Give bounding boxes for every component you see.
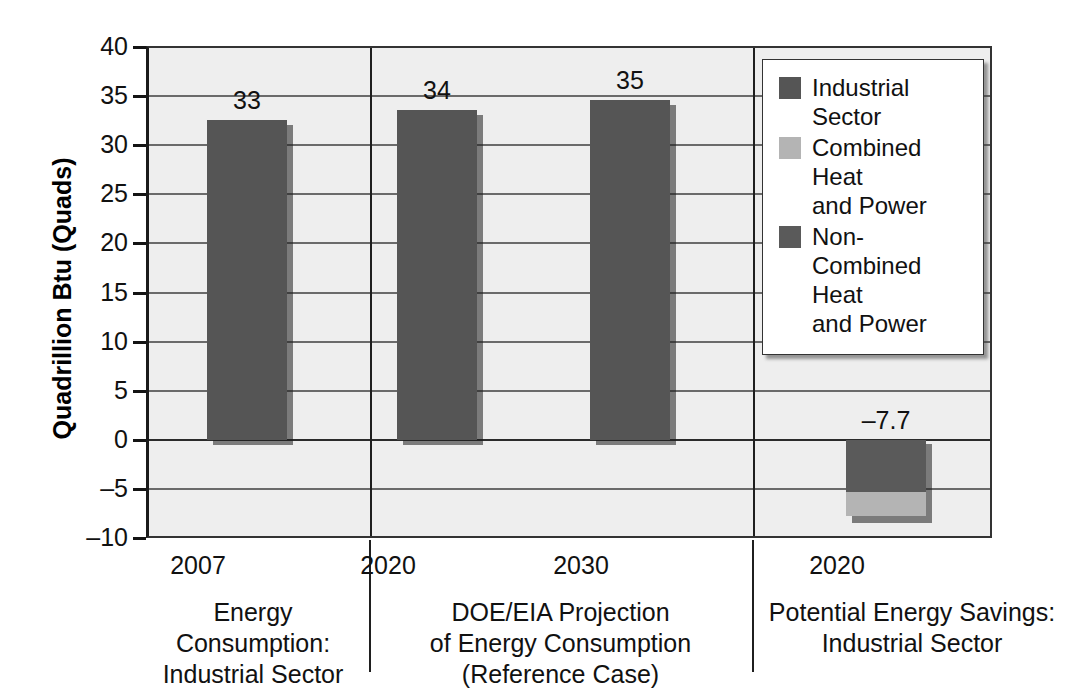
- bar-2007-industrial[interactable]: [207, 120, 287, 440]
- bar-2020-industrial[interactable]: [397, 110, 477, 440]
- y-tick-mark: [133, 488, 146, 491]
- legend-label: Industrial Sector: [812, 73, 967, 131]
- y-tick-mark: [133, 537, 146, 540]
- bar-segment-industrial-sector: [590, 100, 670, 440]
- legend-label: Combined Heat and Power: [812, 133, 967, 220]
- legend-item-industrial-sector[interactable]: Industrial Sector: [779, 73, 967, 131]
- category-year-2030-projection: 2030: [531, 553, 631, 578]
- group-separator: [370, 48, 372, 538]
- y-tick-mark: [133, 292, 146, 295]
- legend-swatch-icon: [779, 226, 801, 248]
- y-tick-mark: [133, 46, 146, 49]
- plot-area: 33 34 35 –7.7 Industrial Sector Combined…: [146, 46, 992, 538]
- bar-value-label: 33: [197, 88, 297, 113]
- legend-item-non-combined-heat-and-power[interactable]: Non-Combined Heat and Power: [779, 222, 967, 338]
- y-tick-mark: [133, 95, 146, 98]
- y-tick-mark: [133, 439, 146, 442]
- legend-label: Non-Combined Heat and Power: [812, 222, 967, 338]
- group-caption-doe-eia-projection: DOE/EIA Projection of Energy Consumption…: [378, 597, 743, 690]
- category-year-2007: 2007: [148, 553, 248, 578]
- y-tick-label: –5: [18, 476, 128, 501]
- bar-segment-industrial-sector: [207, 120, 287, 440]
- category-year-2020-projection: 2020: [338, 553, 438, 578]
- bar-segment-industrial-sector: [397, 110, 477, 440]
- y-tick-label: 0: [18, 427, 128, 452]
- y-tick-label: –10: [18, 525, 128, 550]
- bar-value-label: 34: [387, 78, 487, 103]
- bar-segment-non-combined-heat-and-power: [846, 440, 926, 492]
- group-caption-energy-consumption: Energy Consumption: Industrial Sector: [148, 597, 358, 690]
- bar-value-label: 35: [580, 68, 680, 93]
- y-tick-mark: [133, 144, 146, 147]
- y-tick-label: 20: [18, 230, 128, 255]
- category-year-2020-savings: 2020: [787, 553, 887, 578]
- y-tick-label: 10: [18, 329, 128, 354]
- bar-value-label: –7.7: [831, 408, 941, 433]
- bar-2020-potential-savings[interactable]: [846, 440, 926, 516]
- bar-segment-combined-heat-and-power: [846, 492, 926, 516]
- y-tick-mark: [133, 390, 146, 393]
- y-tick-label: 25: [18, 181, 128, 206]
- y-tick-label: 15: [18, 280, 128, 305]
- group-separator-lower: [752, 540, 754, 672]
- group-caption-potential-savings: Potential Energy Savings: Industrial Sec…: [762, 597, 1062, 659]
- legend: Industrial Sector Combined Heat and Powe…: [762, 59, 984, 355]
- y-tick-label: 5: [18, 378, 128, 403]
- legend-item-combined-heat-and-power[interactable]: Combined Heat and Power: [779, 133, 967, 220]
- bar-2030-industrial[interactable]: [590, 100, 670, 440]
- y-tick-mark: [133, 242, 146, 245]
- legend-swatch-icon: [779, 77, 801, 99]
- y-tick-mark: [133, 193, 146, 196]
- y-tick-label: 40: [18, 34, 128, 59]
- legend-swatch-icon: [779, 137, 801, 159]
- chart-figure: Quadrillion Btu (Quads) 40 35 30 25 20 1: [0, 0, 1067, 695]
- y-tick-label: 35: [18, 83, 128, 108]
- y-tick-mark: [133, 341, 146, 344]
- group-separator: [753, 48, 755, 538]
- y-tick-label: 30: [18, 132, 128, 157]
